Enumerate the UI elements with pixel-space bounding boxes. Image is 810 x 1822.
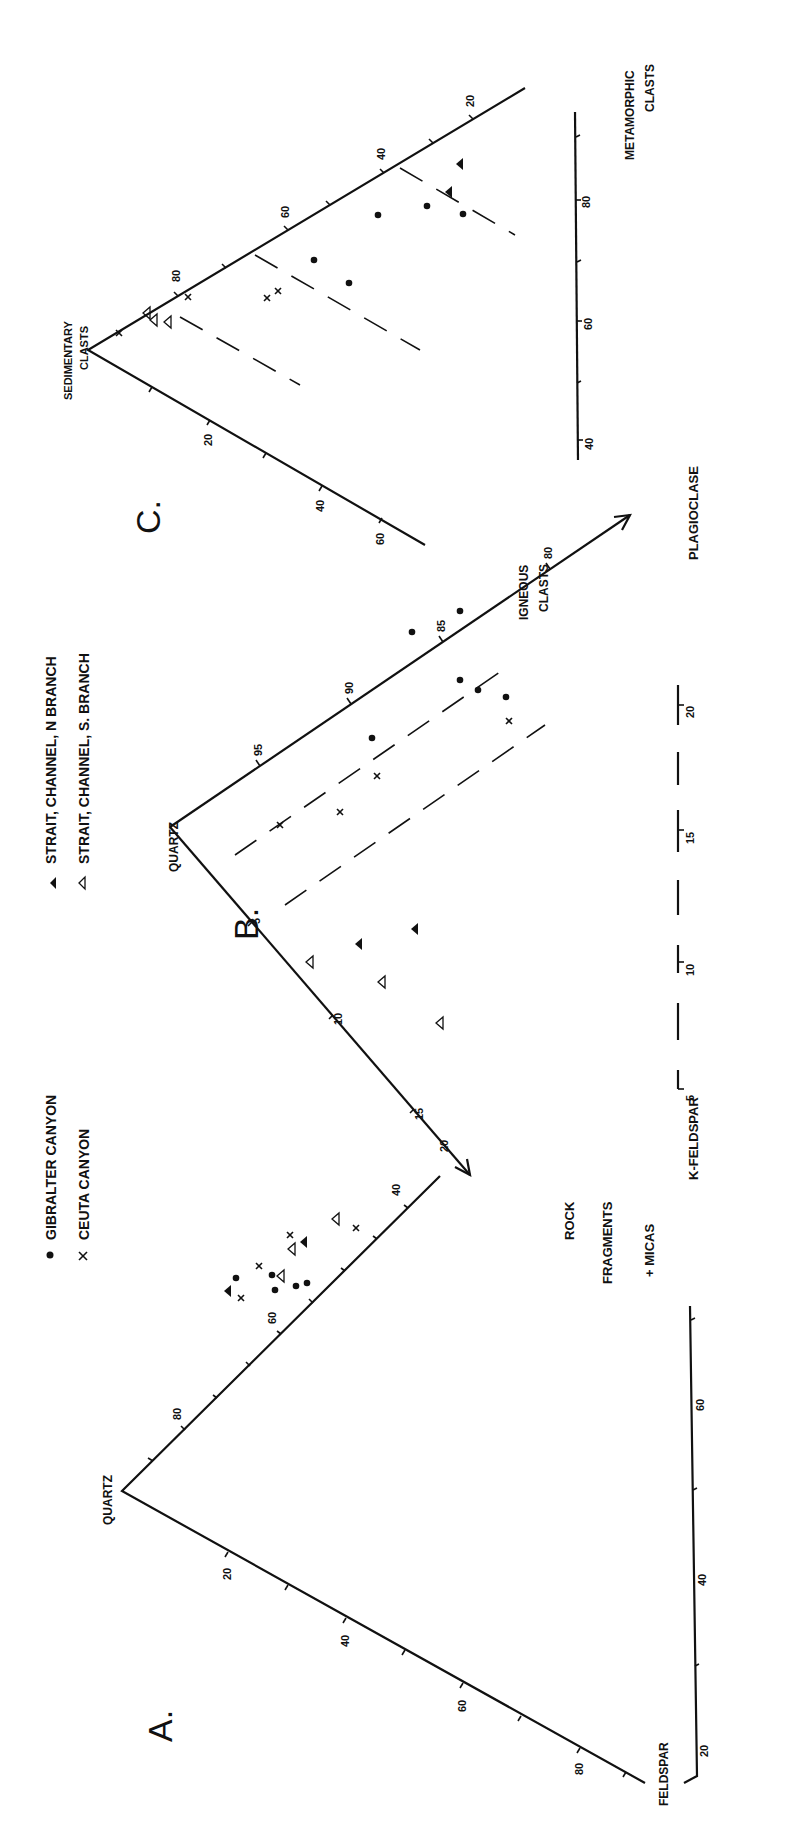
svg-text:80: 80 [542,547,554,559]
panel-c-apex-metamorphic-2: CLASTS [643,64,657,112]
svg-text:10: 10 [332,1013,344,1025]
panel-b-base-axis: 5 10 15 20 [678,685,696,1101]
panel-a-apex-quartz: QUARTZ [101,1475,115,1525]
svg-text:15: 15 [413,1108,425,1120]
svg-text:20: 20 [684,706,696,718]
svg-text:20: 20 [221,1568,233,1580]
svg-text:40: 40 [375,148,387,160]
svg-text:95: 95 [252,744,264,756]
panel-a-left-ticks: 20 40 60 80 [221,1552,626,1777]
legend-n-branch-marker-icon [50,877,56,889]
panel-a-apex-rock-fragments-3: + MICAS [642,1224,657,1277]
legend-s-branch-label: STRAIT, CHANNEL, S. BRANCH [76,653,92,864]
svg-text:80: 80 [580,196,592,208]
svg-text:15: 15 [684,832,696,844]
svg-text:20: 20 [698,1745,710,1757]
svg-text:5: 5 [250,918,262,924]
svg-text:40: 40 [314,500,326,512]
panel-c-dashed-line-3 [400,168,515,235]
svg-text:40: 40 [339,1635,351,1647]
legend: GIBRALTER CANYON CEUTA CANYON STRAIT, CH… [43,653,92,1260]
panel-c-base-ticks: 80 60 40 [576,135,595,450]
panel-a-apex-rock-fragments-1: ROCK [562,1201,577,1240]
svg-text:80: 80 [573,1763,585,1775]
svg-text:60: 60 [279,206,291,218]
legend-s-branch-marker-icon [79,877,85,889]
svg-text:5: 5 [684,1095,696,1101]
ternary-figure: GIBRALTER CANYON CEUTA CANYON STRAIT, CH… [0,0,810,1822]
panel-a-right-ticks: 80 60 40 [148,1184,408,1461]
panel-b-points [277,608,512,1029]
panel-c-letter: C. [129,500,167,534]
panel-c-points [116,158,466,336]
panel-b-dashed-line-upper [235,665,510,855]
svg-text:60: 60 [694,1399,706,1411]
svg-text:80: 80 [171,1408,183,1420]
svg-text:80: 80 [170,270,182,282]
panel-b-apex-quartz: QUARTZ [167,822,181,872]
panel-b-left-edge [170,827,470,1175]
panel-a-apex-feldspar: FELDSPAR [657,1742,671,1806]
svg-text:90: 90 [343,682,355,694]
panel-c-dashed-line-1 [180,317,300,385]
panel-c-apex-metamorphic-1: METAMORPHIC [623,70,637,160]
panel-c-left-ticks: 20 40 60 [149,387,386,545]
panel-a-letter: A. [141,1710,179,1742]
panel-b-dashed-line-lower [285,725,545,905]
svg-text:40: 40 [390,1184,402,1196]
legend-gibralter-marker-icon [47,1252,54,1259]
panel-c-apex-sedimentary-2: CLASTS [78,326,90,370]
svg-text:20: 20 [202,434,214,446]
svg-text:40: 40 [696,1574,708,1586]
svg-text:20: 20 [464,95,476,107]
panel-b-right-ticks: 95 90 85 80 [252,547,554,766]
panel-b-apex-plagioclase: PLAGIOCLASE [686,466,701,560]
svg-text:60: 60 [582,318,594,330]
panel-c-right-ticks: 80 60 40 20 [170,95,476,296]
panel-c-apex-igneous-2: CLASTS [537,564,551,612]
svg-text:40: 40 [583,438,595,450]
svg-text:60: 60 [374,533,386,545]
panel-c-apex-sedimentary-1: SEDIMENTARY [62,321,74,401]
svg-text:60: 60 [456,1700,468,1712]
panel-a: A. QUARTZ FELDSPAR 20 40 60 80 80 [101,1176,710,1806]
panel-a-points [224,1213,359,1301]
legend-ceuta-marker-icon [79,1252,87,1260]
svg-text:10: 10 [684,964,696,976]
panel-a-apex-rock-fragments-2: FRAGMENTS [600,1201,615,1284]
panel-c-apex-igneous-1: IGNEOUS [517,565,531,620]
panel-a-base [684,1306,697,1783]
panel-b-apex-kfeldspar: K-FELDSPAR [686,1097,701,1180]
svg-text:60: 60 [266,1312,278,1324]
svg-text:85: 85 [435,620,447,632]
panel-c-base [575,112,578,460]
svg-text:20: 20 [438,1140,450,1152]
panel-a-edges [122,1176,645,1783]
legend-gibralter-label: GIBRALTER CANYON [43,1095,59,1240]
legend-ceuta-label: CEUTA CANYON [76,1129,92,1240]
panel-b: B. QUARTZ K-FELDSPAR PLAGIOCLASE 5 10 15… [167,466,701,1180]
panel-b-right-edge [170,515,630,827]
panel-c-dashed-line-2 [255,255,420,350]
panel-b-plagioclase-arrow-icon [614,515,630,530]
legend-n-branch-label: STRAIT, CHANNEL, N BRANCH [43,656,59,864]
panel-c: C. SEDIMENTARY CLASTS IGNEOUS CLASTS MET… [62,64,657,620]
